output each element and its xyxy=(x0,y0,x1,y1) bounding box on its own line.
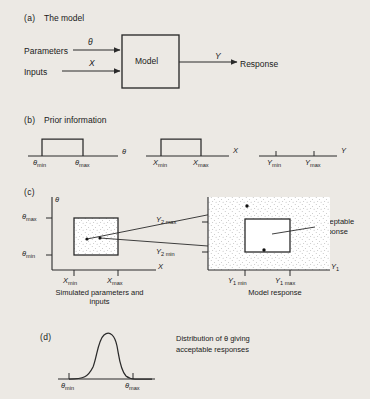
panel-d-distribution-curve xyxy=(69,333,152,379)
figure-canvas: (a) The model Parameters Inputs θ X Y Re… xyxy=(0,0,370,399)
panel-d-vector-layer xyxy=(0,0,370,399)
